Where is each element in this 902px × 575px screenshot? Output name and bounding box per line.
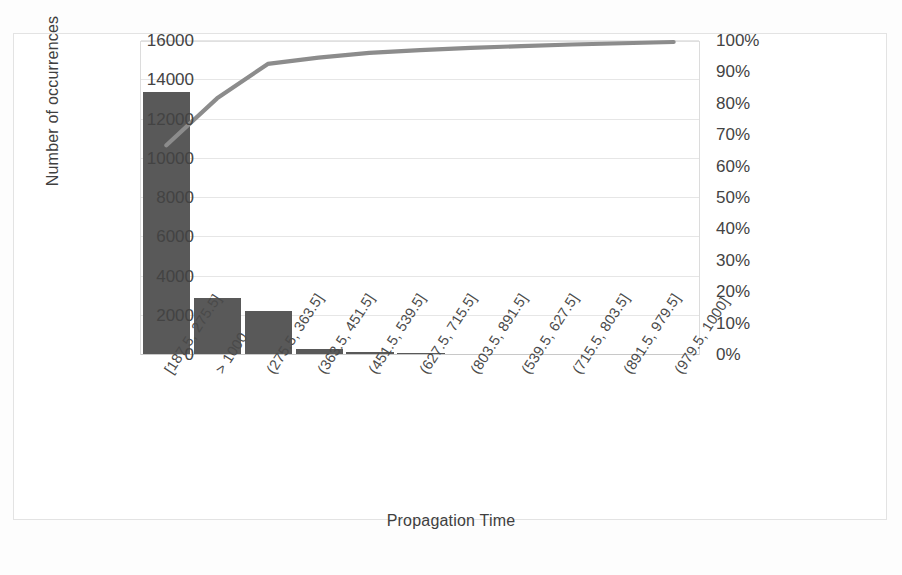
y2-axis-tick-label: 40% [716,220,750,237]
y2-axis-tick-label: 0% [716,346,741,363]
chart-figure: 0200040006000800010000120001400016000 0%… [0,0,902,575]
y2-axis-tick-label: 70% [716,126,750,143]
y-axis-title: Number of occurrences [44,0,62,216]
y2-axis-tick-label: 80% [716,95,750,112]
y2-axis-tick-label: 100% [716,32,759,49]
x-axis-title: Propagation Time [0,512,902,530]
y2-axis-tick-label: 90% [716,63,750,80]
y2-axis-tick-label: 50% [716,189,750,206]
y2-axis-tick-label: 30% [716,252,750,269]
cumulative-line [166,42,673,145]
gridline [141,40,699,41]
y2-axis-tick-label: 60% [716,158,750,175]
